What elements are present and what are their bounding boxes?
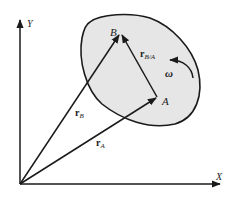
vector-r-b-label: rB [75, 107, 84, 120]
omega-label: ω [165, 67, 173, 79]
y-axis-label: Y [27, 18, 34, 29]
rigid-body [81, 15, 200, 126]
vector-r-a [20, 98, 156, 184]
vector-r-a-label: rA [96, 137, 105, 150]
vector-r-b [20, 35, 119, 184]
point-a-label: A [161, 95, 169, 107]
x-axis-label: X [215, 171, 223, 182]
point-b-label: B [110, 26, 117, 38]
kinematics-diagram: Y X B A ω rB rA rB/A [0, 0, 225, 198]
